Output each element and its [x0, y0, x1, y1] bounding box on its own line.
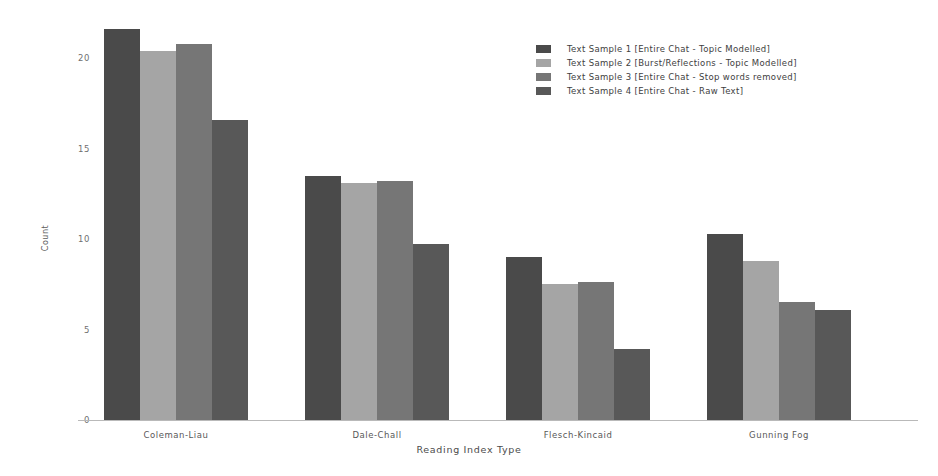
- legend-label: Text Sample 3 [Entire Chat - Stop words …: [567, 72, 797, 82]
- bar[interactable]: [377, 181, 413, 420]
- y-axis-tick-15: 15: [46, 144, 90, 154]
- bar[interactable]: [176, 44, 212, 420]
- x-axis-line: [78, 420, 918, 421]
- legend-swatch-icon: [536, 87, 551, 95]
- bar[interactable]: [578, 282, 614, 420]
- bar[interactable]: [104, 29, 140, 420]
- y-axis: Count 05101520: [34, 0, 90, 476]
- legend-swatch-icon: [536, 73, 551, 81]
- bar[interactable]: [614, 349, 650, 420]
- bar[interactable]: [542, 284, 578, 420]
- x-axis-tick-label: Dale-Chall: [352, 430, 401, 440]
- legend-item[interactable]: Text Sample 3 [Entire Chat - Stop words …: [536, 70, 936, 83]
- legend-label: Text Sample 1 [Entire Chat - Topic Model…: [567, 44, 770, 54]
- y-axis-tick-5: 5: [46, 325, 90, 335]
- legend-item[interactable]: Text Sample 1 [Entire Chat - Topic Model…: [536, 42, 936, 55]
- x-axis-label: Reading Index Type: [0, 444, 938, 455]
- bar-group: [305, 14, 449, 420]
- bar[interactable]: [506, 257, 542, 420]
- bar-group: [104, 14, 248, 420]
- y-axis-tick-20: 20: [46, 53, 90, 63]
- bar-chart: Count 05101520 Coleman-LiauDale-ChallFle…: [0, 0, 938, 476]
- y-axis-tick-10: 10: [46, 234, 90, 244]
- legend-item[interactable]: Text Sample 4 [Entire Chat - Raw Text]: [536, 84, 936, 97]
- bar[interactable]: [341, 183, 377, 420]
- chart-legend: Text Sample 1 [Entire Chat - Topic Model…: [536, 42, 936, 98]
- legend-label: Text Sample 2 [Burst/Reflections - Topic…: [567, 58, 797, 68]
- legend-label: Text Sample 4 [Entire Chat - Raw Text]: [567, 86, 743, 96]
- x-axis-tick-label: Flesch-Kincaid: [544, 430, 613, 440]
- bar[interactable]: [140, 51, 176, 420]
- bar[interactable]: [707, 234, 743, 420]
- bar[interactable]: [743, 261, 779, 420]
- x-axis-tick-label: Coleman-Liau: [144, 430, 209, 440]
- bar[interactable]: [305, 176, 341, 420]
- bar[interactable]: [779, 302, 815, 420]
- bar[interactable]: [413, 244, 449, 420]
- bar[interactable]: [212, 120, 248, 420]
- bar[interactable]: [815, 310, 851, 420]
- x-axis-tick-label: Gunning Fog: [749, 430, 809, 440]
- legend-item[interactable]: Text Sample 2 [Burst/Reflections - Topic…: [536, 56, 936, 69]
- legend-swatch-icon: [536, 59, 551, 67]
- legend-swatch-icon: [536, 45, 551, 53]
